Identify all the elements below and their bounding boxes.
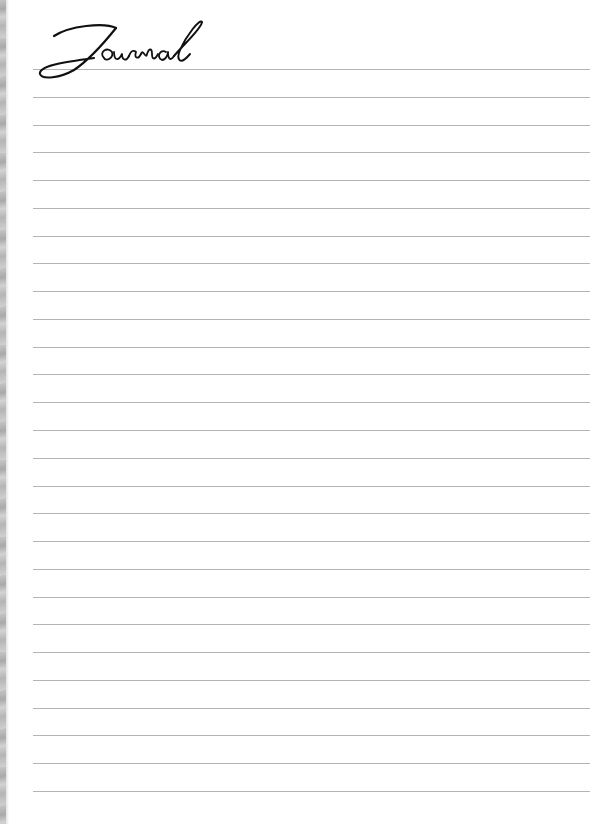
ruled-line xyxy=(33,624,590,625)
ruled-line xyxy=(33,347,590,348)
journal-title: Journal xyxy=(34,14,204,84)
ruled-line xyxy=(33,374,590,375)
ruled-line xyxy=(33,513,590,514)
ruled-line xyxy=(33,125,590,126)
ruled-line xyxy=(33,402,590,403)
ruled-line xyxy=(33,180,590,181)
ruled-line xyxy=(33,708,590,709)
ruled-line xyxy=(33,152,590,153)
ruled-lines xyxy=(0,0,616,824)
journal-script-lettering xyxy=(34,14,204,84)
ruled-line xyxy=(33,763,590,764)
ruled-line xyxy=(33,236,590,237)
ruled-line xyxy=(33,541,590,542)
ruled-line xyxy=(33,597,590,598)
ruled-line xyxy=(33,458,590,459)
ruled-line xyxy=(33,680,590,681)
ruled-line xyxy=(33,291,590,292)
ruled-line xyxy=(33,430,590,431)
ruled-line xyxy=(33,208,590,209)
ruled-line xyxy=(33,486,590,487)
ruled-line xyxy=(33,735,590,736)
ruled-line xyxy=(33,97,590,98)
ruled-line xyxy=(33,263,590,264)
ruled-line xyxy=(33,652,590,653)
ruled-line xyxy=(33,319,590,320)
ruled-line xyxy=(33,791,590,792)
ruled-line xyxy=(33,569,590,570)
